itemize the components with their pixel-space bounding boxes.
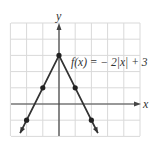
x-axis-label: x [142, 97, 149, 111]
axes [11, 23, 141, 136]
function-graph: y x f(x) = − 2|x| + 3 [0, 0, 151, 145]
grid [10, 23, 140, 136]
equation-label: f(x) = − 2|x| + 3 [71, 56, 148, 69]
y-axis-label: y [55, 9, 62, 23]
